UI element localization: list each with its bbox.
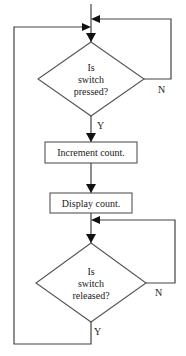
arrow-down-icon	[86, 133, 96, 142]
arrow-left-icon	[91, 216, 100, 224]
decision-pressed-line2: switch	[78, 74, 104, 85]
decision-pressed-line3: pressed?	[74, 86, 109, 97]
display-count-label: Display count.	[62, 198, 120, 209]
yes-label-released: Y	[94, 326, 101, 337]
arrow-down-icon	[86, 234, 96, 243]
yes-label-pressed: Y	[97, 120, 104, 131]
decision-released-line1: Is	[87, 266, 94, 277]
no-label-pressed: N	[158, 84, 165, 95]
decision-pressed-line1: Is	[87, 62, 94, 73]
flowchart: Is switch pressed? N Y Increment count. …	[0, 0, 186, 356]
arrow-down-icon	[86, 33, 96, 42]
arrow-right-icon	[82, 23, 91, 31]
arrow-down-icon	[86, 184, 96, 193]
no-label-released: N	[155, 287, 162, 298]
increment-count-label: Increment count.	[57, 147, 125, 158]
decision-released-line2: switch	[78, 278, 104, 289]
arrow-left-icon	[91, 15, 100, 23]
decision-released-line3: released?	[72, 290, 110, 301]
